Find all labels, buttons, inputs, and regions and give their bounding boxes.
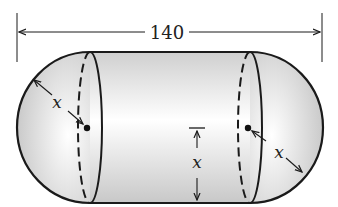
right-hemisphere xyxy=(250,52,323,203)
cylinder-body xyxy=(90,52,250,203)
right-center-point xyxy=(245,125,251,131)
left-hemisphere xyxy=(17,52,90,203)
length-label: 140 xyxy=(150,22,184,43)
capsule-diagram: 140 x x x xyxy=(0,0,338,207)
left-center-point xyxy=(84,125,90,131)
center-radius-label: x xyxy=(192,152,202,172)
right-radius-label: x xyxy=(274,142,284,162)
left-radius-label: x xyxy=(52,92,62,112)
